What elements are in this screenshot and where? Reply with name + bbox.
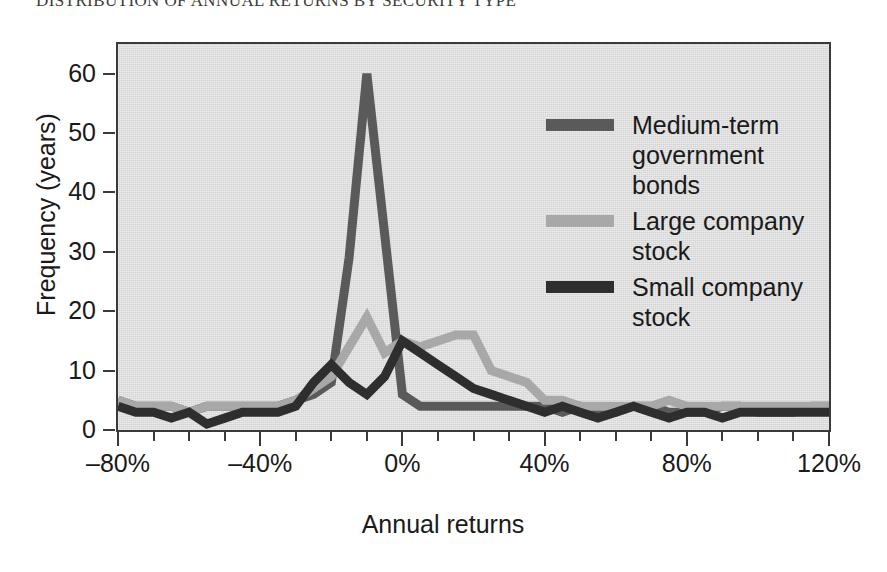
x-axis-tick-label: 120% xyxy=(769,451,887,476)
y-axis-tick-mark xyxy=(103,429,115,431)
y-axis-tick-mark xyxy=(103,370,115,372)
y-axis-tick-mark xyxy=(103,251,115,253)
y-axis-tick-mark xyxy=(103,310,115,312)
x-axis-minor-tick xyxy=(188,432,190,441)
y-axis-title: Frequency (years) xyxy=(32,65,61,365)
x-axis-major-tick xyxy=(544,432,546,446)
x-axis-minor-tick xyxy=(366,432,368,441)
legend-label-medium-term-government-bonds: Medium-term government bonds xyxy=(632,110,829,200)
plot-area: Medium-term government bonds Large compa… xyxy=(116,42,831,432)
legend-item-medium-term-government-bonds: Medium-term government bonds xyxy=(546,110,829,200)
legend-item-large-company-stock: Large company stock xyxy=(546,206,829,266)
x-axis-minor-tick xyxy=(650,432,652,441)
chart-legend: Medium-term government bonds Large compa… xyxy=(546,110,829,338)
x-axis-title: Annual returns xyxy=(293,510,593,539)
x-axis-minor-tick xyxy=(224,432,226,441)
x-axis-tick-label: 80% xyxy=(627,451,747,476)
x-axis-minor-tick xyxy=(508,432,510,441)
legend-swatch-large-company-stock xyxy=(546,215,614,227)
x-axis-tick-label: 40% xyxy=(485,451,605,476)
series-line-small-company-stock xyxy=(118,341,829,424)
legend-swatch-medium-term-government-bonds xyxy=(546,119,614,131)
x-axis-minor-tick xyxy=(757,432,759,441)
x-axis-minor-tick xyxy=(330,432,332,441)
y-axis-tick-mark xyxy=(103,191,115,193)
x-axis-minor-tick xyxy=(792,432,794,441)
x-axis-tick-label: –40% xyxy=(200,451,320,476)
y-axis-tick-mark xyxy=(103,132,115,134)
x-axis-major-tick xyxy=(401,432,403,446)
x-axis-minor-tick xyxy=(579,432,581,441)
x-axis-tick-label: –80% xyxy=(58,451,178,476)
legend-label-small-company-stock: Small company stock xyxy=(632,272,829,332)
x-axis-minor-tick xyxy=(721,432,723,441)
chart-figure: DISTRIBUTION OF ANNUAL RETURNS BY SECURI… xyxy=(0,0,887,572)
x-axis-minor-tick xyxy=(153,432,155,441)
legend-label-large-company-stock: Large company stock xyxy=(632,206,829,266)
x-axis-tick-label: 0% xyxy=(342,451,462,476)
x-axis-major-tick xyxy=(259,432,261,446)
x-axis-major-tick xyxy=(686,432,688,446)
x-axis-minor-tick xyxy=(437,432,439,441)
x-axis-minor-tick xyxy=(473,432,475,441)
y-axis-tick-label: 0 xyxy=(50,417,96,442)
y-axis-tick-mark xyxy=(103,73,115,75)
x-axis-minor-tick xyxy=(615,432,617,441)
x-axis-major-tick xyxy=(117,432,119,446)
page-title: DISTRIBUTION OF ANNUAL RETURNS BY SECURI… xyxy=(36,0,796,9)
x-axis-minor-tick xyxy=(295,432,297,441)
legend-swatch-small-company-stock xyxy=(546,281,614,293)
legend-item-small-company-stock: Small company stock xyxy=(546,272,829,332)
x-axis-major-tick xyxy=(828,432,830,446)
